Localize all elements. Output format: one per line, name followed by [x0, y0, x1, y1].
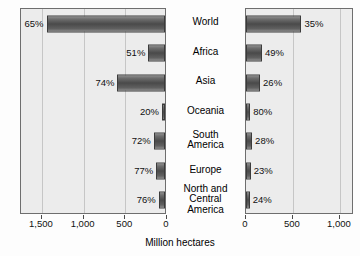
bar-right-africa	[246, 45, 262, 62]
bar-value-label: 80%	[253, 107, 272, 117]
bar-row: 80%	[246, 97, 352, 126]
bar-left-oceania	[162, 103, 165, 120]
axis-tick-label: 500	[284, 219, 300, 229]
x-axis-title: Million hectares	[0, 237, 360, 248]
bar-value-label: 23%	[254, 166, 273, 176]
bar-row: 23%	[246, 156, 352, 185]
bar-row: 77%	[21, 156, 165, 185]
bar-row: 28%	[246, 127, 352, 156]
category-row: Europe	[166, 155, 245, 184]
axis-tick-label: 500	[116, 219, 132, 229]
bar-left-asia	[117, 74, 165, 91]
bar-left-north-and-central-america	[159, 192, 165, 209]
bar-left-world	[47, 15, 165, 32]
bar-left-europe	[156, 162, 165, 179]
axis-tick-label: 1,000	[71, 219, 95, 229]
category-row: Africa	[166, 37, 245, 66]
bar-row: 49%	[246, 38, 352, 67]
bar-row: 65%	[21, 9, 165, 38]
right-x-axis: 05001,000	[245, 215, 353, 229]
category-row: World	[166, 8, 245, 37]
bar-row: 74%	[21, 68, 165, 97]
left-plot-panel: 65%51%74%20%72%77%76%	[20, 8, 166, 214]
axis-tick-label: 0	[163, 219, 168, 229]
bidirectional-bar-chart: 65%51%74%20%72%77%76% WorldAfricaAsiaOce…	[0, 0, 360, 256]
axis-tick-label: 0	[242, 219, 247, 229]
bar-value-label: 74%	[95, 78, 114, 88]
category-label-column: WorldAfricaAsiaOceaniaSouth AmericaEurop…	[166, 8, 245, 214]
bar-row: 51%	[21, 38, 165, 67]
bar-row: 35%	[246, 9, 352, 38]
category-label: South America	[187, 130, 224, 151]
left-x-axis: 1,5001,0005000	[20, 215, 166, 229]
bar-right-north-and-central-america	[246, 192, 250, 209]
bar-value-label: 24%	[253, 196, 272, 206]
bar-value-label: 20%	[140, 107, 159, 117]
category-label: Asia	[196, 76, 215, 87]
bar-value-label: 77%	[134, 166, 153, 176]
bar-right-europe	[246, 162, 251, 179]
bar-row: 24%	[246, 186, 352, 215]
bar-value-label: 76%	[137, 196, 156, 206]
bar-value-label: 51%	[126, 48, 145, 58]
category-row: Oceania	[166, 96, 245, 125]
axis-tick-label: 1,500	[29, 219, 53, 229]
bar-value-label: 65%	[25, 19, 44, 29]
bar-value-label: 72%	[132, 137, 151, 147]
bar-right-world	[246, 15, 301, 32]
bar-value-label: 28%	[255, 137, 274, 147]
bar-row: 26%	[246, 68, 352, 97]
bar-row: 72%	[21, 127, 165, 156]
bar-right-asia	[246, 74, 260, 91]
right-plot-panel: 35%49%26%80%28%23%24%	[245, 8, 353, 214]
category-label: Africa	[193, 47, 219, 58]
bar-left-africa	[148, 45, 165, 62]
category-label: World	[193, 17, 219, 28]
category-label: Europe	[189, 165, 221, 176]
bar-value-label: 35%	[304, 19, 323, 29]
bar-right-oceania	[246, 103, 250, 120]
bar-row: 76%	[21, 186, 165, 215]
category-row: North and Central America	[166, 185, 245, 214]
category-row: Asia	[166, 67, 245, 96]
bar-value-label: 26%	[263, 78, 282, 88]
bar-right-south-america	[246, 133, 252, 150]
category-row: South America	[166, 126, 245, 155]
bar-left-south-america	[154, 133, 165, 150]
category-label: Oceania	[187, 106, 224, 117]
axis-tick-label: 1,000	[327, 219, 351, 229]
bar-row: 20%	[21, 97, 165, 126]
bar-value-label: 49%	[265, 48, 284, 58]
category-label: North and Central America	[184, 184, 228, 216]
